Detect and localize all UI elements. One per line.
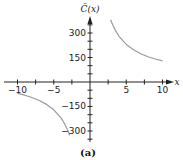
x-axis-label: x (174, 77, 179, 87)
curve-right-branch (111, 20, 163, 61)
y-tick-label: 150 (69, 53, 86, 63)
chart: −10−5510300150−150−300xC̄(x)(a) (0, 0, 183, 160)
figure-caption: (a) (80, 147, 96, 158)
x-tick-label: 10 (157, 85, 169, 95)
y-axis-arrow-icon (88, 16, 93, 24)
y-axis-label: C̄(x) (81, 3, 100, 14)
x-tick-label: −5 (47, 85, 60, 95)
y-tick-label: −150 (61, 101, 86, 111)
x-tick-label: 5 (123, 85, 129, 95)
y-tick-label: 300 (69, 28, 86, 38)
y-tick-label: −300 (61, 126, 86, 136)
labels: −10−5510300150−150−300xC̄(x)(a) (8, 3, 180, 158)
x-tick-label: −10 (8, 85, 27, 95)
x-axis-arrow-icon (166, 80, 174, 85)
